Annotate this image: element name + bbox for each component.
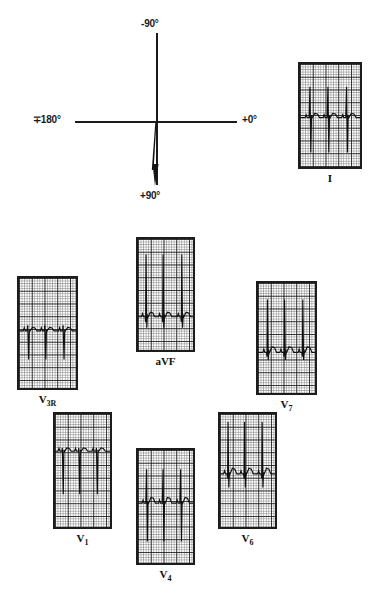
ecg-strip-lead-avf xyxy=(136,237,195,352)
label-text: I xyxy=(328,172,332,184)
ecg-strip-label-lead-v6: V6 xyxy=(198,532,297,547)
ecg-waveform-lead-v3r xyxy=(19,278,76,388)
ecg-waveform-lead-v6 xyxy=(220,414,275,527)
label-subscript: 4 xyxy=(167,574,171,583)
axis-label-plus-0: +0° xyxy=(242,114,257,125)
ecg-waveform-lead-v4 xyxy=(138,450,193,563)
ecg-waveform-lead-v7 xyxy=(258,283,315,393)
ecg-waveform-lead-v1 xyxy=(55,414,110,527)
label-subscript: 7 xyxy=(288,404,292,413)
ecg-strip-lead-v1 xyxy=(53,412,112,529)
ecg-strip-lead-v4 xyxy=(136,448,195,565)
ecg-waveform-lead-avf xyxy=(138,239,193,350)
ecg-strip-label-lead-v4: V4 xyxy=(116,568,215,583)
horizontal-axis-line xyxy=(75,121,237,123)
figure-canvas: -90° ∓180° +0° +90° IV3RaVFV7V1V4V6 xyxy=(0,0,374,589)
axis-label-plus-90: +90° xyxy=(140,190,160,201)
label-subscript: 6 xyxy=(249,538,253,547)
ecg-strip-label-lead-i: I xyxy=(278,172,374,184)
label-subscript: 3R xyxy=(47,399,57,408)
label-text: aVF xyxy=(155,355,175,367)
label-text: V xyxy=(39,393,47,405)
ecg-waveform-lead-i xyxy=(300,64,360,167)
ecg-strip-lead-v7 xyxy=(256,281,317,395)
ecg-strip-label-lead-v3r: V3R xyxy=(0,393,98,408)
ecg-strip-lead-v6 xyxy=(218,412,277,529)
ecg-strip-label-lead-avf: aVF xyxy=(116,355,215,367)
axis-label-minus-90: -90° xyxy=(141,18,159,29)
ecg-strip-label-lead-v7: V7 xyxy=(236,398,337,413)
ecg-strip-label-lead-v1: V1 xyxy=(33,532,132,547)
ecg-strip-lead-v3r xyxy=(17,276,78,390)
axis-label-180: ∓180° xyxy=(33,114,61,125)
vertical-axis-line xyxy=(156,33,158,185)
label-subscript: 1 xyxy=(84,538,88,547)
ecg-strip-lead-i xyxy=(298,62,362,169)
